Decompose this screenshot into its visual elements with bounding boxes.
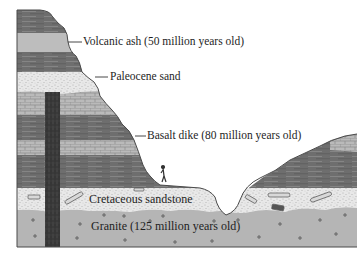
label-volcanic-ash: Volcanic ash (50 million years old) bbox=[83, 36, 244, 48]
label-paleocene-sand: Paleocene sand bbox=[110, 71, 181, 83]
label-basalt-dike: Basalt dike (80 million years old) bbox=[147, 130, 301, 142]
basalt-dike bbox=[45, 92, 60, 247]
label-granite: Granite (125 million years old) bbox=[91, 220, 240, 232]
label-cretaceous-sandstone: Cretaceous sandstone bbox=[89, 193, 193, 205]
